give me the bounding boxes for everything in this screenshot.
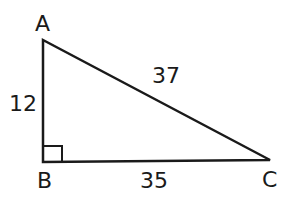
vertex-label-c: C: [262, 169, 277, 191]
vertex-label-b: B: [37, 170, 52, 192]
right-angle-marker: [43, 146, 62, 162]
vertex-label-a: A: [35, 13, 50, 35]
side-label-ab: 12: [9, 93, 37, 115]
side-label-bc: 35: [140, 170, 168, 192]
triangle-abc: [43, 40, 270, 162]
side-label-ac: 37: [152, 65, 180, 87]
